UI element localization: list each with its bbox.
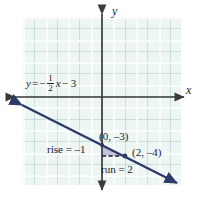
- fraction-denominator: 2: [47, 83, 54, 93]
- run-label: run = 2: [101, 164, 133, 175]
- equation-fraction: 1 2: [47, 74, 54, 94]
- point-label-y-intercept: (0, –3): [99, 131, 128, 142]
- rise-label: rise = –1: [47, 144, 86, 155]
- equation-equals: =: [32, 78, 38, 89]
- linear-function-line: [22, 105, 177, 183]
- equation-lhs: y: [26, 78, 31, 89]
- equation-label: y = − 1 2 x − 3: [26, 74, 76, 94]
- equation-constant: − 3: [62, 78, 76, 89]
- point-marker-second: [123, 154, 128, 159]
- point-marker-y-intercept: [100, 143, 104, 147]
- x-axis-label: x: [186, 84, 191, 96]
- equation-sign: −: [39, 78, 45, 89]
- equation-variable: x: [56, 78, 61, 89]
- graph-figure: x y y = − 1 2 x − 3 (0, –3) (2, –4) rise…: [0, 0, 203, 201]
- point-label-second-point: (2, –4): [132, 147, 161, 158]
- fraction-numerator: 1: [47, 74, 54, 83]
- y-axis-label: y: [112, 5, 117, 17]
